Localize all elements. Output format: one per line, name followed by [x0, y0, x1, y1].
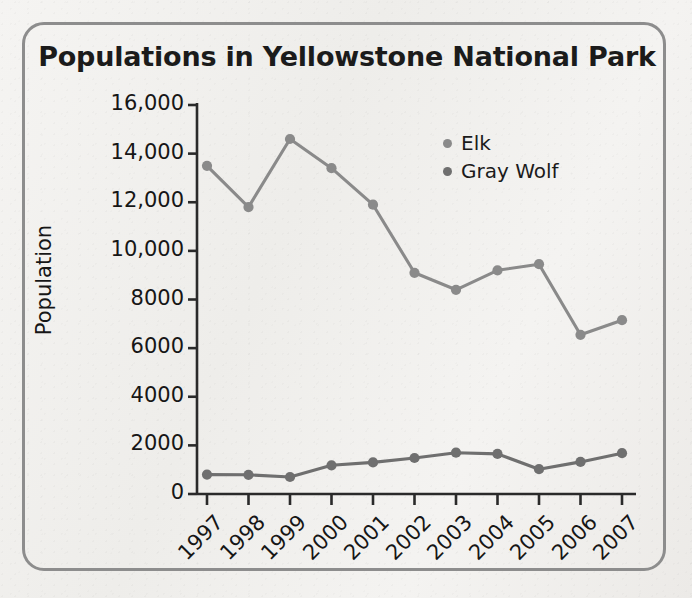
- chart-legend: ElkGray Wolf: [443, 129, 623, 185]
- y-tick-label: 4000: [72, 383, 184, 407]
- chart-title: Populations in Yellowstone National Park: [25, 41, 669, 72]
- legend-item-elk[interactable]: Elk: [443, 129, 623, 157]
- y-tick-label: 2000: [72, 431, 184, 455]
- legend-item-gray-wolf[interactable]: Gray Wolf: [443, 157, 623, 185]
- y-tick-label: 12,000: [72, 188, 184, 212]
- legend-label: Elk: [461, 131, 491, 155]
- y-axis-title: Population: [32, 200, 56, 360]
- legend-label: Gray Wolf: [461, 159, 559, 183]
- y-tick-label: 8000: [72, 286, 184, 310]
- y-tick-label: 16,000: [72, 91, 184, 115]
- y-tick-label: 0: [72, 480, 184, 504]
- legend-marker-icon: [443, 167, 452, 176]
- y-tick-label: 10,000: [72, 237, 184, 261]
- y-tick-label: 6000: [72, 334, 184, 358]
- y-tick-label: 14,000: [72, 140, 184, 164]
- legend-marker-icon: [443, 139, 452, 148]
